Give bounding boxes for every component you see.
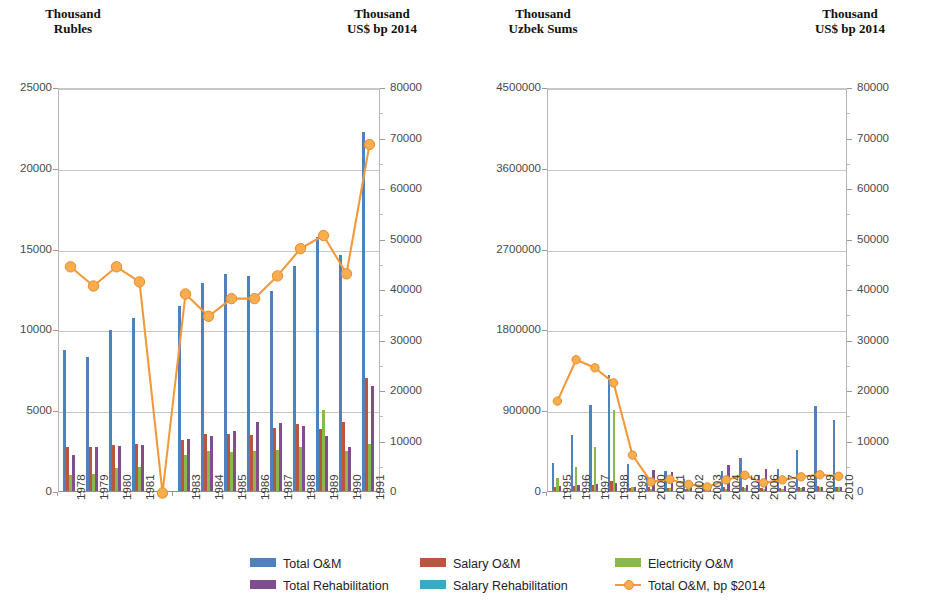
secondary-y-axis-tickmark: [847, 139, 852, 140]
line-data-point: [226, 293, 236, 303]
secondary-y-axis-tick-label: 60000: [390, 183, 448, 194]
y-axis-tick-label: 900000: [485, 405, 541, 416]
secondary-y-axis-tickmark: [380, 442, 385, 443]
secondary-y-axis-tickmark: [380, 189, 385, 190]
x-axis-tick-label: 1981: [144, 474, 156, 500]
legend-item-line-2014[interactable]: Total O&M, bp $2014: [615, 578, 765, 593]
line-data-point: [628, 451, 636, 459]
y-axis-tick-label: 20000: [0, 163, 52, 174]
x-axis-tick-label: 1990: [351, 474, 363, 500]
y-axis-tickmark: [53, 250, 58, 251]
legend-color-swatch-icon: [615, 558, 641, 567]
y-axis-tick-label: 1800000: [485, 324, 541, 335]
legend-item-salary-rehab[interactable]: Salary Rehabilitation: [420, 578, 568, 593]
secondary-y-axis-minor-tickmark: [847, 366, 850, 367]
legend-item-electricity-om[interactable]: Electricity O&M: [615, 556, 733, 571]
secondary-y-axis-tick-label: 20000: [390, 385, 448, 396]
secondary-y-axis-tickmark: [380, 139, 385, 140]
legend-color-swatch-icon: [250, 580, 276, 589]
line-data-point: [609, 379, 617, 387]
secondary-y-axis-tickmark: [847, 189, 852, 190]
line-data-point: [318, 230, 328, 240]
y-axis-tickmark: [542, 88, 547, 89]
line-series-layer: [548, 89, 848, 493]
line-data-point: [553, 397, 561, 405]
x-axis-tick-label: 1997: [599, 474, 611, 500]
secondary-y-axis-tickmark: [380, 391, 385, 392]
line-series-layer: [59, 89, 381, 493]
right-chart-primary-axis-title: Thousand Uzbek Sums: [478, 6, 608, 36]
x-axis-tickmark: [172, 492, 173, 496]
right-chart-secondary-axis-title: Thousand US$ bp 2014: [780, 6, 920, 36]
x-axis-tick-label: 2008: [805, 474, 817, 500]
y-axis-tickmark: [542, 250, 547, 251]
secondary-y-axis-tickmark: [380, 88, 385, 89]
x-axis-tick-label: 1984: [213, 474, 225, 500]
line-data-point: [591, 364, 599, 372]
line-data-point: [295, 243, 305, 253]
y-axis-tick-label: 15000: [0, 244, 52, 255]
secondary-y-axis-tickmark: [847, 290, 852, 291]
line-data-point: [134, 277, 144, 287]
line-data-point: [180, 289, 190, 299]
y-axis-tick-label: 25000: [0, 82, 52, 93]
legend-item-label: Total O&M: [283, 557, 341, 571]
left-chart-panel: Thousand Rubles Thousand US$ bp 2014 050…: [0, 0, 465, 552]
secondary-y-axis-tick-label: 30000: [857, 335, 915, 346]
line-data-point: [364, 139, 374, 149]
x-axis-tick-label: 2007: [786, 474, 798, 500]
y-axis-tick-label: 5000: [0, 405, 52, 416]
secondary-y-axis-tick-label: 50000: [857, 234, 915, 245]
secondary-y-axis-minor-tickmark: [380, 366, 383, 367]
secondary-y-axis-tick-label: 40000: [857, 284, 915, 295]
legend-color-swatch-icon: [250, 558, 276, 567]
y-axis-tickmark: [53, 411, 58, 412]
y-axis-tickmark: [53, 330, 58, 331]
x-axis-tick-label: 2004: [730, 474, 742, 500]
x-axis-tick-label: 2001: [674, 474, 686, 500]
secondary-y-axis-tick-label: 80000: [390, 82, 448, 93]
y-axis-tickmark: [542, 169, 547, 170]
total-om-bp-2014-line: [71, 145, 370, 494]
secondary-y-axis-tick-label: 70000: [390, 133, 448, 144]
secondary-y-axis-tickmark: [847, 391, 852, 392]
y-axis-tick-label: 0: [0, 486, 52, 497]
y-axis-tickmark: [542, 411, 547, 412]
y-axis-tick-label: 0: [485, 486, 541, 497]
secondary-y-axis-tick-label: 10000: [390, 436, 448, 447]
right-chart-plot-area: [547, 88, 847, 492]
y-axis-tickmark: [53, 88, 58, 89]
legend-item-total-rehab[interactable]: Total Rehabilitation: [250, 578, 389, 593]
x-axis-tick-label: 1999: [636, 474, 648, 500]
legend-item-label: Salary O&M: [453, 557, 520, 571]
x-axis-tick-label: 2009: [824, 474, 836, 500]
secondary-y-axis-minor-tickmark: [380, 164, 383, 165]
x-axis-tick-label: 1996: [580, 474, 592, 500]
legend-line-marker-icon: [615, 580, 641, 589]
y-axis-tickmark: [53, 169, 58, 170]
figure-root: Thousand Rubles Thousand US$ bp 2014 050…: [0, 0, 930, 604]
x-axis-tick-label: 2010: [843, 474, 855, 500]
legend-item-salary-om[interactable]: Salary O&M: [420, 556, 520, 571]
x-axis-tick-label: 2000: [655, 474, 667, 500]
x-axis-tick-label: 2005: [749, 474, 761, 500]
secondary-y-axis-minor-tickmark: [847, 164, 850, 165]
secondary-y-axis-minor-tickmark: [380, 416, 383, 417]
legend-item-total-om[interactable]: Total O&M: [250, 556, 341, 571]
x-axis-tick-label: 1989: [328, 474, 340, 500]
secondary-y-axis-tickmark: [380, 290, 385, 291]
x-axis-tick-label: 1991: [374, 474, 386, 500]
secondary-y-axis-tick-label: 60000: [857, 183, 915, 194]
secondary-y-axis-tickmark: [847, 341, 852, 342]
secondary-y-axis-tickmark: [380, 341, 385, 342]
line-data-point: [157, 488, 167, 498]
secondary-y-axis-minor-tickmark: [847, 315, 850, 316]
line-data-point: [249, 293, 259, 303]
line-data-point: [111, 262, 121, 272]
x-axis-tick-label: 1985: [236, 474, 248, 500]
secondary-y-axis-tick-label: 0: [857, 486, 915, 497]
secondary-y-axis-minor-tickmark: [380, 214, 383, 215]
legend-item-label: Total O&M, bp $2014: [648, 579, 765, 593]
x-axis-tick-label: 1983: [190, 474, 202, 500]
x-axis-tickmark: [57, 492, 58, 496]
